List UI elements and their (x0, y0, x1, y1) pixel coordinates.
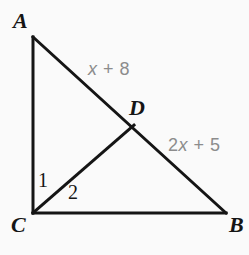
vertex-label-c: C (11, 214, 26, 236)
side-expression-db-prefix: 2 (168, 135, 179, 155)
side-expression-ad-variable: x (88, 59, 98, 79)
geometry-diagram: A B C D 1 2 x + 8 2x + 5 (0, 0, 249, 255)
vertex-label-d: D (129, 97, 145, 119)
segment-cd (33, 125, 134, 213)
side-expression-db-variable: x (179, 135, 189, 155)
side-expression-ad: x + 8 (88, 60, 130, 78)
side-expression-db: 2x + 5 (168, 136, 221, 154)
angle-label-1: 1 (38, 170, 48, 190)
triangle-figure (0, 0, 249, 255)
side-expression-db-rest: + 5 (188, 135, 221, 155)
side-expression-ad-rest: + 8 (98, 59, 131, 79)
angle-label-2: 2 (68, 182, 78, 202)
vertex-label-b: B (229, 214, 244, 236)
vertex-label-a: A (13, 10, 28, 32)
